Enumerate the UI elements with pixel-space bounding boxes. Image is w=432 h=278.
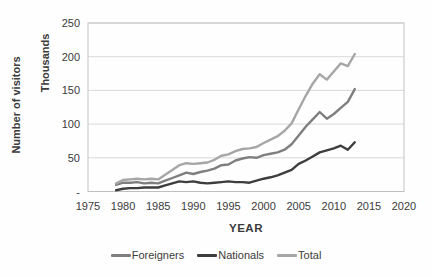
nationals-line-swatch-icon — [197, 254, 217, 257]
chart-legend: Foreigners Nationals Total — [0, 249, 432, 261]
gridlines — [88, 23, 404, 158]
svg-text:250: 250 — [62, 17, 80, 29]
legend-label-nationals: Nationals — [218, 249, 264, 261]
svg-text:1980: 1980 — [111, 200, 135, 212]
svg-text:1975: 1975 — [76, 200, 100, 212]
legend-item-nationals: Nationals — [197, 249, 264, 261]
visitors-line-chart: 25020015010050-1975198019851990199520002… — [0, 0, 432, 278]
svg-text:2020: 2020 — [392, 200, 416, 212]
y-axis-tick-labels: 25020015010050- — [62, 17, 81, 198]
svg-text:150: 150 — [62, 84, 80, 96]
svg-text:2010: 2010 — [322, 200, 346, 212]
svg-text:1995: 1995 — [216, 200, 240, 212]
legend-item-foreigners: Foreigners — [111, 249, 185, 261]
svg-text:1985: 1985 — [146, 200, 170, 212]
svg-text:100: 100 — [62, 118, 80, 130]
x-axis-tick-labels: 1975198019851990199520002005201020152020 — [76, 200, 416, 212]
svg-text:1990: 1990 — [181, 200, 205, 212]
foreigners-line-swatch-icon — [111, 254, 131, 257]
y-axis-title: Number of visitors — [10, 53, 22, 157]
legend-label-total: Total — [298, 249, 321, 261]
visitors-chart-container: 25020015010050-1975198019851990199520002… — [0, 0, 432, 278]
series-line-total — [116, 54, 355, 183]
legend-item-total: Total — [277, 249, 321, 261]
series-line-foreigners — [116, 89, 355, 185]
y-axis-units-label: Thousands — [39, 32, 51, 94]
svg-text:-: - — [76, 186, 80, 198]
plot-border — [88, 23, 404, 192]
svg-text:50: 50 — [68, 152, 80, 164]
svg-text:2000: 2000 — [251, 200, 275, 212]
svg-text:200: 200 — [62, 51, 80, 63]
svg-text:2005: 2005 — [286, 200, 310, 212]
svg-text:2015: 2015 — [357, 200, 381, 212]
x-axis-title: YEAR — [88, 222, 404, 234]
total-line-swatch-icon — [277, 254, 297, 257]
legend-label-foreigners: Foreigners — [132, 249, 185, 261]
